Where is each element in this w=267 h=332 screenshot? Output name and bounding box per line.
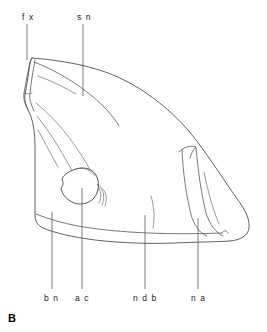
figure-panel: f x s n b n a c n d b n a B	[0, 0, 267, 332]
specimen-drawing: f x s n b n a c n d b n a B	[0, 0, 267, 332]
label-sn: s n	[77, 12, 92, 22]
label-fx: f x	[22, 12, 34, 22]
label-ndb: n d b	[133, 293, 157, 303]
label-na: n a	[191, 293, 206, 303]
label-bn: b n	[44, 293, 59, 303]
label-ac: a c	[75, 293, 90, 303]
panel-letter: B	[8, 312, 16, 324]
